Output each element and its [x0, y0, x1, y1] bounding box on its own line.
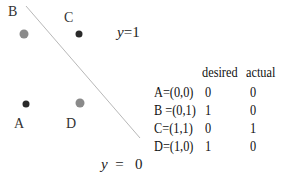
region-label-y0-var: y	[101, 156, 108, 172]
table-row-label: A=(0,0)	[154, 86, 193, 100]
table-row-label: B =(0,1)	[154, 104, 196, 118]
point-d	[76, 99, 85, 108]
point-label-c: C	[64, 11, 73, 25]
table-row-label: C=(1,1)	[154, 122, 193, 136]
region-label-y1: y=1	[117, 25, 140, 40]
region-label-y1-val: 1	[132, 24, 140, 40]
point-a	[23, 101, 30, 108]
table-cell-desired: 1	[205, 140, 211, 154]
point-b	[20, 30, 29, 39]
region-label-y0-val: 0	[135, 156, 143, 172]
point-label-b: B	[8, 5, 17, 19]
table-cell-desired: 1	[205, 104, 211, 118]
point-label-a: A	[14, 117, 24, 131]
table-cell-actual: 0	[250, 140, 256, 154]
region-label-y1-var: y	[117, 24, 124, 40]
diagram-canvas	[0, 0, 287, 184]
table-header-actual: actual	[246, 66, 275, 80]
table-cell-desired: 0	[205, 122, 211, 136]
table-cell-desired: 0	[205, 86, 211, 100]
point-c	[76, 31, 83, 38]
region-label-y0-op: =	[115, 156, 123, 172]
table-cell-actual: 1	[250, 122, 256, 136]
point-label-d: D	[66, 117, 76, 131]
region-label-y1-op: =	[124, 24, 132, 40]
table-cell-actual: 0	[250, 104, 256, 118]
region-label-y0: y = 0	[101, 157, 142, 172]
table-cell-actual: 0	[250, 86, 256, 100]
table-header-desired: desired	[202, 66, 238, 80]
table-row-label: D=(1,0)	[154, 140, 193, 154]
